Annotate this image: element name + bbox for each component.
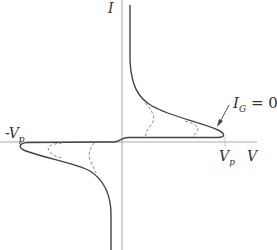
- x-axis-label: V: [247, 148, 257, 164]
- iv-characteristic-diagram: [0, 0, 277, 250]
- dashed-curve-upper-1: [145, 103, 154, 137]
- annotation-label: IG = 0: [233, 94, 277, 114]
- dashed-curve-upper-2: [185, 121, 198, 137]
- y-axis-label: I: [108, 0, 114, 16]
- solid-curve-lower: [20, 142, 114, 250]
- neg-vp-label: -Vp: [5, 125, 25, 144]
- arrow-head-icon: [217, 119, 223, 127]
- dashed-curve-lower-2: [89, 143, 96, 173]
- annotation-rest: = 0: [246, 94, 277, 112]
- vp-main: V: [219, 148, 229, 164]
- neg-vp-main: -V: [5, 125, 19, 141]
- vp-label: Vp: [219, 148, 235, 167]
- neg-vp-sub: p: [19, 134, 25, 144]
- annotation-arrow-line: [220, 105, 229, 122]
- vp-sub: p: [229, 157, 235, 167]
- dashed-curve-lower-1: [48, 143, 62, 158]
- solid-curve-upper: [114, 5, 224, 142]
